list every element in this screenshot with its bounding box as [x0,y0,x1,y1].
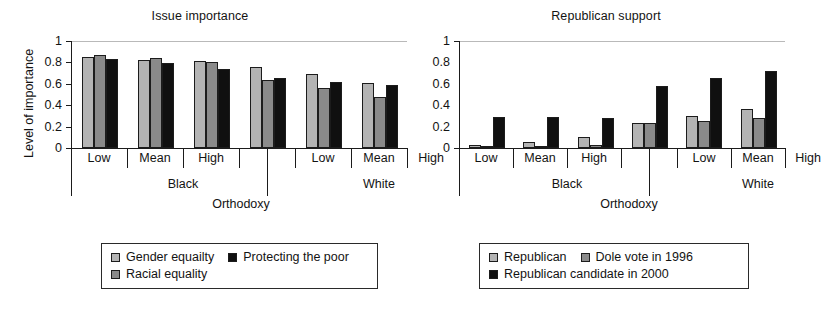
y-tick-label: 1 [443,36,450,46]
chart-title-right: Republican support [426,9,786,23]
legend-item[interactable]: Racial equality [111,268,207,281]
bar [274,78,286,148]
legend-label: Dole vote in 1996 [596,251,693,264]
bar [698,121,710,148]
category-label: Mean [731,151,785,165]
legend-row: Republican Dole vote in 1996 [489,249,739,266]
y-axis-label-left: Level of importance [22,49,36,158]
legend-item[interactable]: Gender equailty [111,251,214,264]
y-tick-label: 0.4 [45,100,62,110]
bar [94,55,106,148]
category-label: Low [459,151,513,165]
bar-group [128,41,184,148]
bar [753,118,765,148]
bar [374,97,386,148]
y-tick-label: 0.2 [45,122,62,132]
supergroup-label: Black [127,177,239,191]
bar [318,88,330,148]
y-tick-label: 0 [55,143,62,153]
y-tick-label: 0.8 [45,57,62,67]
y-tick-label: 0 [443,143,450,153]
legend-left: Gender equailty Protecting the poor Raci… [101,243,378,289]
category-label: Low [71,151,127,165]
legend-label: Protecting the poor [243,251,349,264]
bar [493,117,505,148]
bar [162,63,174,148]
axis-tick [621,148,622,168]
y-tick-label: 0.4 [433,100,450,110]
bar [362,83,374,148]
legend-right: Republican Dole vote in 1996 Republican … [479,243,749,289]
legend-row: Racial equality [111,266,368,283]
legend-item[interactable]: Republican candidate in 2000 [489,268,669,281]
legend-label: Republican candidate in 2000 [504,268,669,281]
bar [656,86,668,148]
bar [330,82,342,148]
bar-group [352,41,408,148]
legend-swatch-icon [111,270,120,279]
y-tick-label: 0.6 [433,79,450,89]
bar [138,60,150,148]
y-tick-label: 0.8 [433,57,450,67]
bar [644,123,656,148]
bar-group [72,41,128,148]
y-tick-label: 0.2 [433,122,450,132]
bar [82,57,94,148]
bar [150,58,162,148]
bar [106,59,118,148]
bar-group [732,41,786,148]
legend-row: Gender equailty Protecting the poor [111,249,368,266]
axis-tick [239,148,240,168]
bar [194,61,206,148]
chart-title-left: Issue importance [10,9,390,23]
category-label: Mean [351,151,407,165]
panel-issue-importance: Issue importance Level of importance 0 0… [0,0,412,313]
supergroup-label: Black [513,177,621,191]
bar [632,123,644,148]
legend-swatch-icon [228,253,237,262]
bar-group [677,41,731,148]
bar-group [460,41,514,148]
bar-group [296,41,352,148]
bar [386,85,398,148]
panel-republican-support: Republican support 0 0.2 0.4 0.6 0.8 1 [412,0,799,313]
axis-tick [267,148,268,196]
category-label: Low [677,151,731,165]
bar [741,109,753,148]
legend-label: Gender equailty [126,251,214,264]
legend-item[interactable]: Protecting the poor [228,251,349,264]
bar [262,80,274,148]
bar-group [514,41,568,148]
legend-item[interactable]: Republican [489,251,567,264]
plot-area-left [71,41,407,148]
category-label: Mean [127,151,183,165]
bar [578,137,590,148]
category-label: High [785,151,825,165]
x-axis-label-left: Orthodoxy [181,197,301,211]
bar [602,118,614,148]
axis-tick [649,148,650,196]
legend-swatch-icon [489,253,498,262]
bar [686,116,698,148]
category-label: High [183,151,239,165]
category-label: High [567,151,621,165]
bar [250,67,262,148]
category-label: Mean [513,151,567,165]
bar-group [184,41,240,148]
legend-item[interactable]: Dole vote in 1996 [581,251,693,264]
supergroup-label: White [704,177,812,191]
plot-area-right [459,41,785,148]
bar-group [569,41,623,148]
bar [547,117,559,148]
y-tick-label: 1 [55,36,62,46]
bar-group [240,41,296,148]
category-label: Low [295,151,351,165]
x-axis-label-right: Orthodoxy [569,197,689,211]
legend-label: Racial equality [126,268,207,281]
bar-group [623,41,677,148]
bar [218,69,230,148]
bar [206,62,218,148]
legend-row: Republican candidate in 2000 [489,266,739,283]
legend-label: Republican [504,251,567,264]
